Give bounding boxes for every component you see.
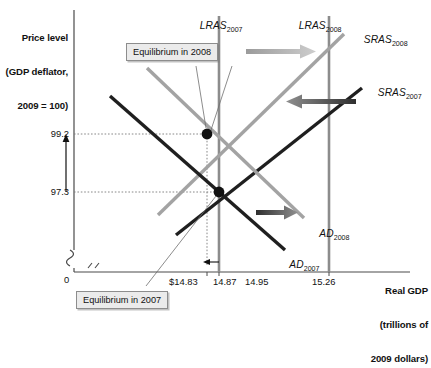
x-axis-title: Real GDP (trillions of 2009 dollars) bbox=[346, 262, 428, 368]
equilibrium-point-2007 bbox=[214, 187, 225, 198]
y-axis-title-line-3: 2009 = 100) bbox=[2, 100, 68, 111]
x-tick-14-83: $14.83 bbox=[169, 276, 198, 287]
x-axis-title-line-1: Real GDP bbox=[346, 285, 428, 296]
guide-lines bbox=[74, 134, 219, 265]
curve-label-ad-2007-base: AD bbox=[289, 259, 303, 270]
y-axis-title-line-2: (GDP deflator, bbox=[2, 66, 68, 77]
x-tick-14-95: 14.95 bbox=[245, 276, 268, 287]
output-arrow bbox=[203, 259, 219, 265]
curve-label-sras-2007-base: SRAS bbox=[378, 87, 406, 98]
x-axis-title-line-2: (trillions of bbox=[346, 319, 428, 330]
curve-label-ad-2007-sub: 2007 bbox=[304, 265, 320, 273]
origin-label: 0 bbox=[64, 274, 69, 285]
sras-shift-arrow bbox=[286, 95, 356, 109]
y-tick-99-2: 99.2 bbox=[24, 128, 69, 139]
curve-label-lras-2008: LRAS2008 bbox=[287, 8, 342, 46]
callout-equilibrium-2007[interactable]: Equilibrium in 2007 bbox=[76, 291, 168, 309]
x-tick-14-87: 14.87 bbox=[213, 276, 236, 287]
curve-label-ad-2008-sub: 2008 bbox=[334, 234, 350, 242]
curve-label-lras-2007-base: LRAS bbox=[200, 20, 227, 31]
curve-label-sras-2008: SRAS2008 bbox=[352, 22, 408, 60]
curve-label-sras-2007-sub: 2007 bbox=[406, 93, 422, 101]
curve-label-sras-2008-base: SRAS bbox=[364, 34, 392, 45]
curve-label-sras-2008-sub: 2008 bbox=[392, 40, 408, 48]
axis-break-marks bbox=[67, 250, 100, 268]
lras-shift-arrow bbox=[246, 45, 316, 59]
price-level-arrow bbox=[63, 134, 70, 192]
x-axis-title-line-3: 2009 dollars) bbox=[346, 353, 428, 364]
y-axis-title-line-1: Price level bbox=[2, 32, 68, 43]
curve-label-lras-2008-base: LRAS bbox=[299, 20, 326, 31]
callout-equilibrium-2008[interactable]: Equilibrium in 2008 bbox=[126, 43, 218, 61]
y-axis-title: Price level (GDP deflator, 2009 = 100) bbox=[2, 9, 68, 133]
equilibrium-point-2008 bbox=[202, 129, 213, 140]
curve-label-ad-2008-base: AD bbox=[319, 228, 333, 239]
curve-label-lras-2007: LRAS2007 bbox=[188, 8, 243, 46]
curve-label-lras-2008-sub: 2008 bbox=[326, 26, 342, 34]
curve-label-ad-2007: AD2007 bbox=[278, 247, 319, 285]
curve-label-sras-2007: SRAS2007 bbox=[366, 75, 422, 113]
y-tick-97-3: 97.3 bbox=[24, 186, 69, 197]
curve-label-lras-2007-sub: 2007 bbox=[227, 26, 243, 34]
